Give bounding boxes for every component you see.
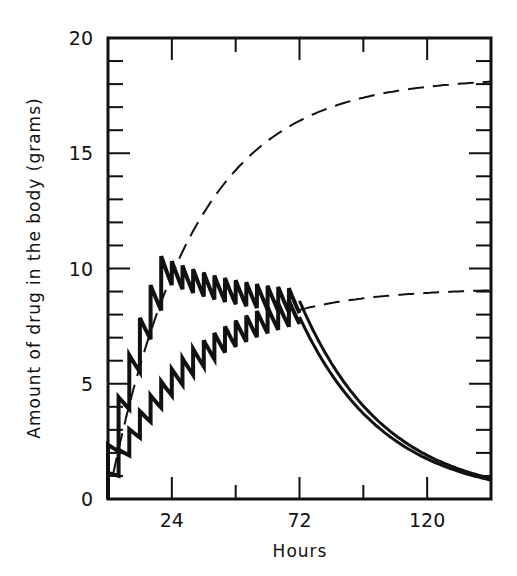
y-tick-label: 20 [69,27,93,49]
x-tick-label: 120 [409,509,445,531]
x-axis-label: Hours [273,541,328,561]
y-axis-title: Amount of drug in the body (grams) [24,97,44,438]
y-tick-label: 10 [69,258,93,280]
y-tick-labels: 05101520 [69,27,93,510]
drug-amount-chart: Amount of drug in the body (grams) Hours… [0,0,517,576]
y-tick-label: 5 [81,373,93,395]
y-axis-label: Amount of drug in the body (grams) [24,97,44,438]
dashed-curve-low [300,290,492,310]
sawtooth-maintenance-curve [108,301,300,500]
y-tick-label: 15 [69,142,93,164]
elimination-curve-upper [300,301,492,479]
y-tick-label: 0 [81,488,93,510]
sawtooth-loading-curve [108,256,300,499]
x-tick-labels: 2472120 [160,509,446,531]
data-curves [108,82,491,499]
elimination-curve-lower [300,317,492,480]
x-tick-label: 24 [160,509,184,531]
x-tick-label: 72 [287,509,311,531]
